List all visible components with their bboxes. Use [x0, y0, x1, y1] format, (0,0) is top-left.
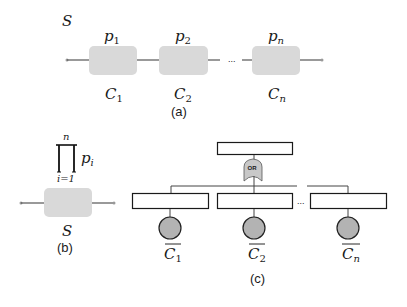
panel-a: S ... p1 p2 pn C1 C2 Cn (a): [62, 12, 324, 119]
product-term: pi: [81, 149, 94, 168]
component-label-2: C2: [174, 85, 192, 104]
output-terminal: [321, 59, 324, 62]
caption-b: (b): [57, 240, 73, 255]
component-box-1: [89, 46, 137, 75]
panel-c: OR ... C1 C2 Cn (c): [133, 143, 387, 287]
prob-label-2: p2: [175, 27, 191, 46]
product-lower-limit: i=1: [57, 173, 75, 184]
event-box-n: [311, 194, 387, 209]
caption-c: (c): [250, 271, 265, 286]
prob-label-1: p1: [104, 27, 120, 46]
reliability-diagram: S ... p1 p2 pn C1 C2 Cn (a) n: [0, 0, 407, 307]
basic-event-circle-n: [337, 217, 359, 239]
component-box-2: [159, 46, 208, 75]
basic-event-circle-1: [159, 217, 181, 239]
event-box-1: [133, 194, 209, 209]
caption-a: (a): [171, 104, 187, 119]
product-symbol-icon: [56, 145, 77, 172]
product-upper-limit: n: [63, 131, 69, 142]
system-box: [44, 188, 92, 217]
prob-label-n: pn: [268, 27, 284, 46]
top-event-box: [218, 143, 293, 155]
ellipsis-a: ...: [228, 54, 236, 64]
output-terminal: [113, 202, 116, 205]
component-label-n: Cn: [268, 85, 286, 104]
component-label-1: C1: [105, 85, 123, 104]
event-box-2: [218, 194, 293, 209]
or-gate-label: OR: [248, 165, 258, 171]
basic-event-label-n: Cn: [342, 245, 360, 264]
system-label-b: S: [62, 222, 72, 240]
component-box-n: [252, 46, 300, 75]
or-gate-icon: OR: [244, 159, 262, 181]
basic-event-label-1: C1: [164, 245, 182, 264]
system-label-a: S: [62, 12, 72, 30]
panel-b: n i=1 pi S (b): [20, 131, 116, 255]
basic-event-circle-2: [243, 217, 265, 239]
basic-event-label-2: C2: [248, 245, 266, 264]
ellipsis-c: ...: [297, 196, 305, 206]
